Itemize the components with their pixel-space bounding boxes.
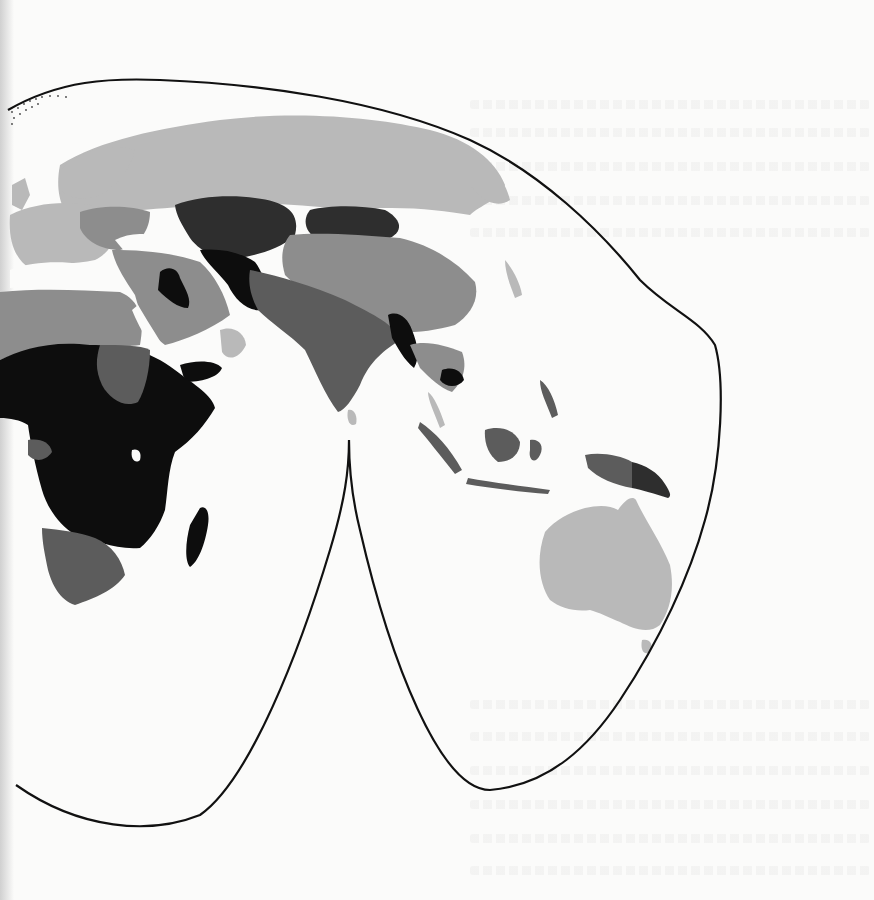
region-papua-new-guinea — [632, 462, 670, 498]
region-sumatra — [418, 422, 462, 474]
region-new-zealand — [719, 612, 760, 670]
region-uk — [12, 178, 30, 210]
region-java — [466, 478, 550, 494]
landmasses — [0, 115, 760, 669]
region-sulawesi — [530, 440, 542, 461]
region-borneo — [485, 428, 520, 462]
region-madagascar — [186, 507, 208, 567]
arctic-stipple — [11, 95, 67, 125]
region-new-guinea-west — [585, 454, 632, 488]
region-malay-peninsula — [428, 392, 445, 428]
world-map — [0, 0, 874, 900]
region-japan — [505, 260, 522, 298]
region-sri-lanka — [347, 410, 356, 425]
region-philippines — [540, 380, 558, 418]
region-australia — [540, 498, 672, 630]
region-arabia-south — [220, 328, 246, 357]
